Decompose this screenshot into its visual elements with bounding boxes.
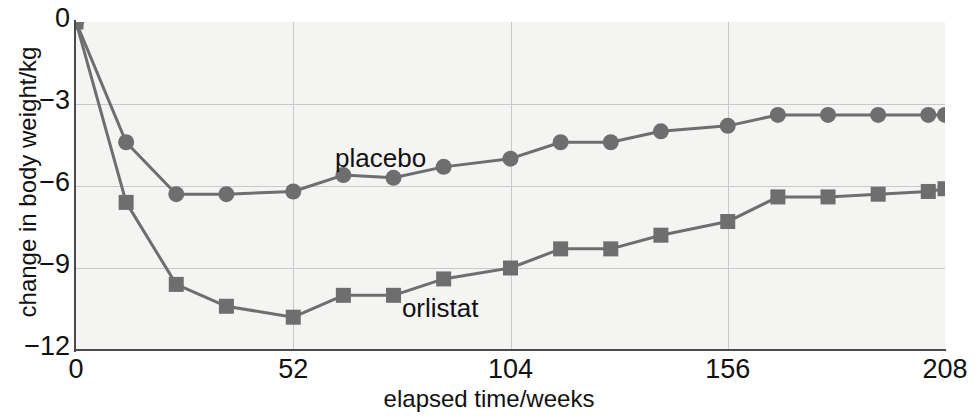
x-tick-label: 104	[488, 356, 533, 383]
data-point-orlistat	[503, 261, 518, 276]
data-point-placebo	[285, 183, 301, 199]
x-tick-label: 208	[922, 356, 967, 383]
data-point-placebo	[218, 186, 234, 202]
x-axis-title: elapsed time/weeks	[0, 385, 978, 413]
data-point-orlistat	[871, 187, 886, 202]
data-point-placebo	[118, 134, 134, 150]
data-point-placebo	[653, 123, 669, 139]
data-point-orlistat	[553, 241, 568, 256]
data-point-orlistat	[720, 214, 735, 229]
y-tick-label: −12	[0, 333, 78, 360]
plot-area: placeboorlistat	[76, 22, 945, 350]
data-point-placebo	[553, 134, 569, 150]
y-tick-label: −3	[0, 87, 78, 114]
data-point-orlistat	[169, 277, 184, 292]
data-point-orlistat	[770, 189, 785, 204]
data-point-placebo	[603, 134, 619, 150]
data-point-placebo	[870, 107, 886, 123]
data-point-orlistat	[336, 288, 351, 303]
data-point-orlistat	[653, 228, 668, 243]
y-tick-label: −9	[0, 251, 78, 278]
data-point-orlistat	[76, 22, 84, 30]
data-point-orlistat	[436, 271, 451, 286]
series-layer	[76, 22, 945, 350]
data-point-placebo	[770, 107, 786, 123]
y-tick-label: 0	[0, 5, 78, 32]
x-tick-label: 0	[68, 356, 83, 383]
data-point-placebo	[168, 186, 184, 202]
x-axis-line	[74, 349, 946, 351]
data-point-orlistat	[921, 184, 936, 199]
series-label-orlistat: orlistat	[402, 293, 479, 324]
y-axis-line	[74, 20, 76, 352]
data-point-orlistat	[821, 189, 836, 204]
y-tick-label: −6	[0, 169, 78, 196]
x-tick-label: 52	[278, 356, 308, 383]
series-label-placebo: placebo	[335, 143, 426, 174]
data-point-placebo	[820, 107, 836, 123]
series-line-placebo	[76, 22, 945, 194]
x-tick-label: 156	[705, 356, 750, 383]
data-point-placebo	[503, 151, 519, 167]
data-point-orlistat	[603, 241, 618, 256]
data-point-placebo	[937, 107, 945, 123]
data-point-placebo	[920, 107, 936, 123]
data-point-orlistat	[386, 288, 401, 303]
chart-figure: change in body weight/kg 0−3−6−9−12 plac…	[0, 0, 978, 416]
data-point-orlistat	[938, 181, 946, 196]
data-point-orlistat	[119, 195, 134, 210]
data-point-orlistat	[219, 299, 234, 314]
data-point-placebo	[436, 159, 452, 175]
data-point-placebo	[720, 118, 736, 134]
data-point-orlistat	[286, 310, 301, 325]
